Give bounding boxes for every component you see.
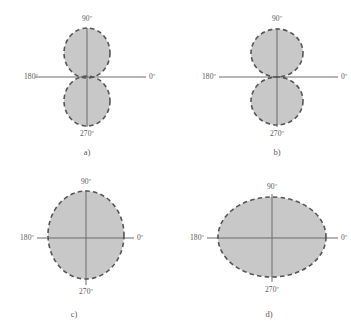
panel-a-angle-label-180: 180º	[24, 73, 38, 81]
panel-b-caption: b)	[273, 148, 280, 157]
panel-b-angle-label-90: 90º	[272, 15, 282, 23]
panel-a-angle-label-270: 270º	[80, 130, 94, 138]
panel-c-angle-label-0: 0º	[137, 234, 143, 242]
panel-b	[219, 28, 338, 127]
panel-a	[35, 28, 146, 127]
panel-d-angle-label-90: 90º	[267, 183, 277, 191]
panel-b-angle-label-0: 0º	[341, 73, 347, 81]
panel-b-angle-label-270: 270º	[270, 130, 284, 138]
polar-pattern-figure: 90º0º270º180ºa)90º0º270º180ºb)90º0º270º1…	[0, 0, 351, 330]
panel-a-caption: a)	[84, 148, 91, 157]
panel-d-angle-label-0: 0º	[341, 234, 347, 242]
panel-d	[207, 194, 338, 282]
panel-d-angle-label-180: 180º	[190, 234, 204, 242]
panel-d-angle-label-270: 270º	[265, 286, 279, 294]
panel-b-angle-label-180: 180º	[202, 73, 216, 81]
figure-canvas	[0, 0, 351, 330]
panel-a-angle-label-0: 0º	[149, 73, 155, 81]
panel-c-caption: c)	[71, 310, 78, 319]
panel-a-angle-label-90: 90º	[82, 15, 92, 23]
panel-c-angle-label-90: 90º	[81, 178, 91, 186]
panel-c-angle-label-180: 180º	[20, 234, 34, 242]
panel-c	[37, 190, 134, 285]
panel-c-angle-label-270: 270º	[79, 288, 93, 296]
panel-d-caption: d)	[265, 310, 272, 319]
